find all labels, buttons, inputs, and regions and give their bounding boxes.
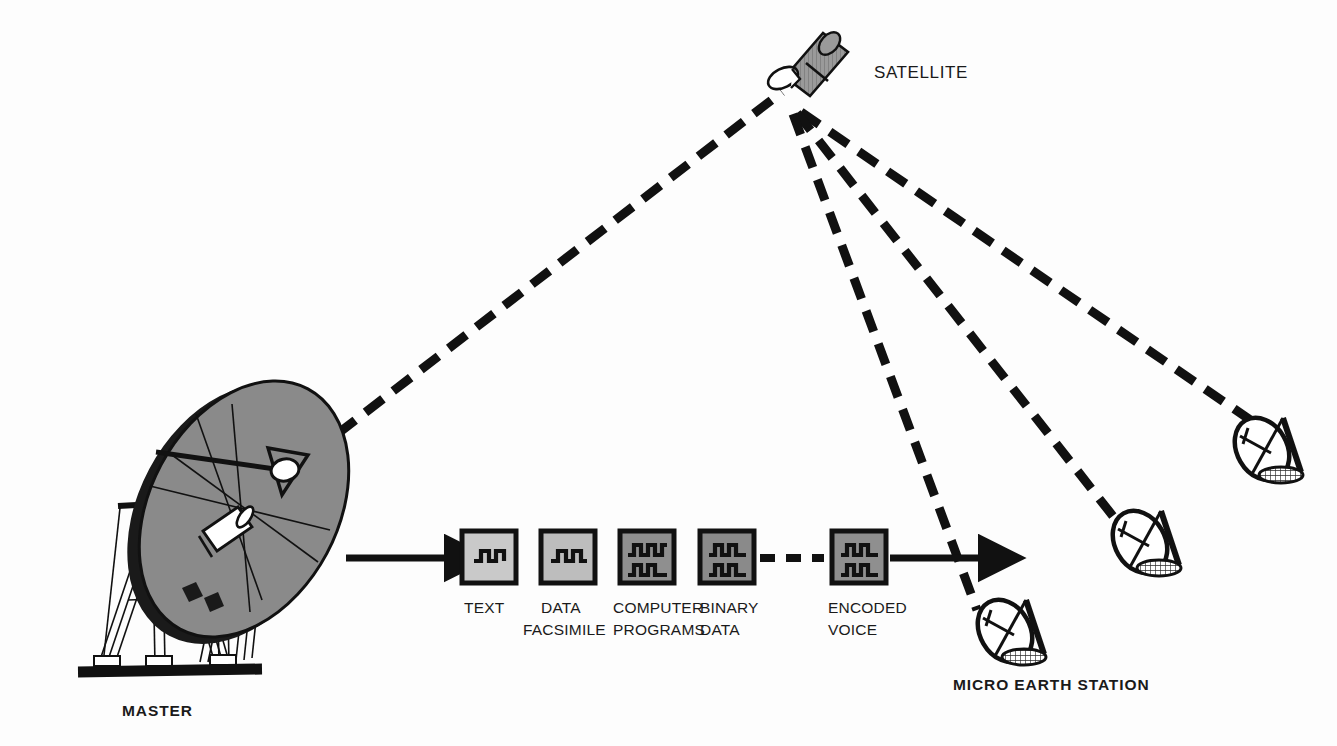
master-earth-station [78, 345, 391, 681]
satellite-label: SATELLITE [874, 63, 968, 82]
signal-block-label-binary: BINARY [700, 599, 759, 616]
signal-block-label-voice: VOICE [828, 621, 877, 638]
master-ground-line [78, 669, 262, 672]
micro-earth-station-3[interactable] [967, 590, 1046, 672]
downlink-beam-2 [797, 113, 1116, 520]
micro-earth-station-1[interactable] [1224, 408, 1303, 490]
signal-block-label-encoded: ENCODED [828, 599, 907, 616]
satellite-network-diagram: SATELLITE [0, 0, 1337, 746]
master-label: MASTER [122, 702, 193, 719]
signal-block-label-text: TEXT [464, 599, 505, 616]
micro-earth-station-label: MICRO EARTH STATION [953, 676, 1150, 693]
signal-block-label-computer: COMPUTER [613, 599, 703, 616]
signal-block-label-data2: DATA [700, 621, 740, 638]
signal-block-encoded-voice[interactable] [832, 531, 886, 583]
signal-block-binary-data[interactable] [700, 531, 754, 583]
diagram-canvas: SATELLITE [0, 0, 1337, 746]
signal-block-computer-programs[interactable] [620, 531, 674, 583]
signal-block-text[interactable] [462, 531, 516, 583]
signal-block-data-facsimile[interactable] [541, 531, 595, 583]
signal-block-label-data: DATA [541, 599, 581, 616]
signal-block-label-programs: PROGRAMS [613, 621, 705, 638]
satellite-icon [764, 28, 848, 96]
downlink-beam-1 [801, 112, 1262, 428]
uplink-beam [310, 92, 782, 455]
signal-block-label-facsimile: FACSIMILE [523, 621, 606, 638]
